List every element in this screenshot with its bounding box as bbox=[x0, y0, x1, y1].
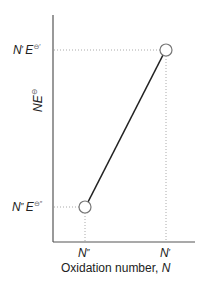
y-tick-upper-label: N′E⊖′ bbox=[13, 43, 41, 57]
lower-point-marker bbox=[79, 201, 91, 213]
x-tick-prime-label: N′ bbox=[160, 246, 171, 260]
y-axis-label: NE⊖ bbox=[30, 89, 45, 112]
upper-point-marker bbox=[160, 44, 172, 56]
y-tick-lower-label: N″E⊖″ bbox=[12, 200, 43, 214]
data-line bbox=[88, 55, 163, 202]
x-axis-label: Oxidation number, N bbox=[61, 261, 171, 275]
frost-diagram: N′E⊖′ N″E⊖″ NE⊖ N″ N′ Oxidation number, … bbox=[0, 0, 206, 286]
x-tick-double-prime-label: N″ bbox=[78, 246, 91, 260]
